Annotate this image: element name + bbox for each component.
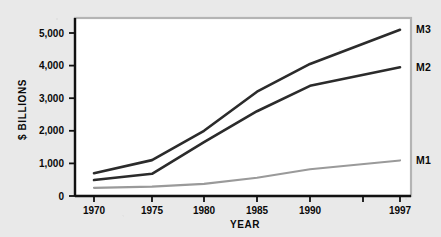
chart-svg: 0 1,000 2,000 3,000 4,000 5,000 $ BILLIO…: [0, 0, 441, 237]
y-tick-label-5000: 5,000: [39, 28, 64, 39]
money-supply-line-chart: 0 1,000 2,000 3,000 4,000 5,000 $ BILLIO…: [0, 0, 441, 237]
y-tick-label-3000: 3,000: [39, 93, 64, 104]
y-tick-label-2000: 2,000: [39, 125, 64, 136]
series-label-m3: M3: [416, 23, 431, 35]
x-tick-label-1980: 1980: [193, 205, 216, 216]
x-tick-label-1990: 1990: [299, 205, 322, 216]
y-tick-label-0: 0: [58, 191, 64, 202]
y-axis-title: $ BILLIONS: [17, 79, 28, 140]
x-tick-label-1997: 1997: [389, 205, 412, 216]
x-tick-label-1985: 1985: [246, 205, 269, 216]
y-tick-label-1000: 1,000: [39, 158, 64, 169]
x-tick-label-1975: 1975: [141, 205, 164, 216]
y-tick-label-4000: 4,000: [39, 60, 64, 71]
series-label-m2: M2: [416, 61, 431, 73]
x-axis-title: YEAR: [230, 219, 260, 230]
x-tick-label-1970: 1970: [83, 205, 106, 216]
series-label-m1: M1: [416, 154, 431, 166]
